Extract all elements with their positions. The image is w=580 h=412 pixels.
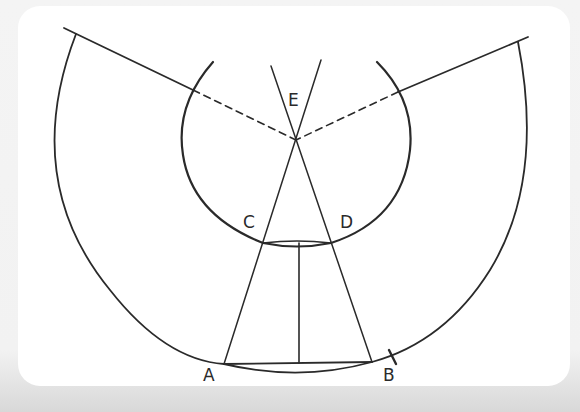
outer-arc — [55, 34, 527, 373]
left-dashed-line — [193, 90, 296, 140]
label-e: E — [288, 90, 299, 110]
line-eb — [271, 66, 372, 362]
geometry-diagram: E C D A B — [0, 0, 580, 412]
right-dashed-line — [296, 92, 398, 140]
left-radial-line — [64, 28, 193, 90]
label-b: B — [383, 365, 395, 385]
label-c: C — [243, 212, 255, 232]
label-d: D — [340, 212, 353, 232]
label-a: A — [203, 365, 215, 385]
chord-cd — [263, 241, 331, 243]
right-radial-line — [398, 37, 528, 92]
line-ea — [224, 60, 321, 364]
chord-ab — [224, 362, 372, 364]
